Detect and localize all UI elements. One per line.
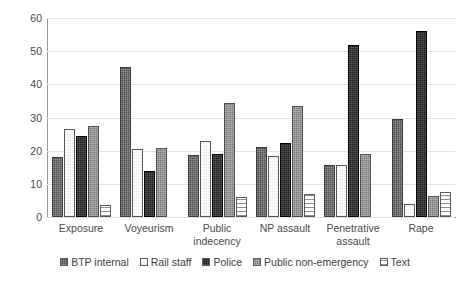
bar-group: [319, 18, 387, 217]
bar-group-bars: [47, 18, 115, 217]
y-axis-tick-label: 30: [30, 112, 42, 124]
bar: [156, 148, 167, 217]
y-axis-tick-label: 20: [30, 145, 42, 157]
bar: [144, 171, 155, 217]
bar: [100, 205, 111, 217]
bar-groups: [47, 18, 455, 217]
x-axis-label-line: assault: [319, 235, 387, 248]
y-axis-tick-label: 0: [36, 211, 42, 223]
legend-swatch-icon: [380, 258, 388, 266]
bar-group-bars: [387, 18, 455, 217]
bar-group-bars: [251, 18, 319, 217]
bar: [224, 103, 235, 217]
y-axis-tick-label: 60: [30, 12, 42, 24]
x-axis-label: NP assault: [251, 222, 319, 247]
y-axis-tick-label: 50: [30, 45, 42, 57]
bar-group: [387, 18, 455, 217]
bar: [336, 165, 347, 217]
legend-item[interactable]: Text: [380, 256, 410, 268]
bar-group: [115, 18, 183, 217]
bar-group: [183, 18, 251, 217]
bar: [348, 45, 359, 217]
x-axis-label-line: Rape: [387, 222, 455, 235]
bar: [236, 197, 247, 217]
bar: [120, 67, 131, 217]
bar: [392, 119, 403, 217]
bar: [324, 165, 335, 217]
bar: [200, 141, 211, 217]
bar: [416, 31, 427, 217]
legend-label: Rail staff: [151, 256, 192, 268]
x-axis-label-line: Voyeurism: [115, 222, 183, 235]
x-axis-label-line: Public: [183, 222, 251, 235]
bar-group: [251, 18, 319, 217]
y-axis-tick-label: 10: [30, 178, 42, 190]
x-axis-label: Rape: [387, 222, 455, 247]
legend-swatch-icon: [60, 258, 68, 266]
bar: [88, 126, 99, 217]
x-axis-label: Voyeurism: [115, 222, 183, 247]
plot-area: 0102030405060: [47, 18, 455, 217]
bar: [212, 154, 223, 217]
bar-group-bars: [115, 18, 183, 217]
legend-label: Public non-emergency: [264, 256, 368, 268]
bar: [256, 147, 267, 217]
bar: [76, 136, 87, 217]
x-axis-label-line: Exposure: [47, 222, 115, 235]
bar: [292, 106, 303, 217]
bar: [404, 204, 415, 217]
legend-item[interactable]: Public non-emergency: [253, 256, 368, 268]
bar: [268, 156, 279, 217]
bar: [64, 129, 75, 217]
legend-swatch-icon: [202, 258, 210, 266]
bar: [280, 143, 291, 217]
legend-label: BTP internal: [71, 256, 129, 268]
legend-item[interactable]: BTP internal: [60, 256, 129, 268]
bar-group-bars: [183, 18, 251, 217]
x-axis-label: Penetrativeassault: [319, 222, 387, 247]
x-axis-label: Exposure: [47, 222, 115, 247]
bar: [304, 194, 315, 217]
legend-swatch-icon: [140, 258, 148, 266]
bar: [360, 154, 371, 217]
legend-label: Text: [391, 256, 410, 268]
bar: [132, 149, 143, 217]
x-axis-label-line: NP assault: [251, 222, 319, 235]
bar-chart: 0102030405060 ExposureVoyeurismPublicind…: [0, 0, 470, 281]
legend-swatch-icon: [253, 258, 261, 266]
legend-label: Police: [213, 256, 242, 268]
bar: [440, 192, 451, 217]
bar-group-bars: [319, 18, 387, 217]
bar: [428, 196, 439, 217]
x-axis-label-line: indecency: [183, 235, 251, 248]
gridline: [47, 217, 455, 218]
x-axis-label: Publicindecency: [183, 222, 251, 247]
bar-group: [47, 18, 115, 217]
y-axis-tick-label: 40: [30, 78, 42, 90]
x-axis-labels: ExposureVoyeurismPublicindecencyNP assau…: [47, 222, 455, 247]
chart-legend: BTP internalRail staffPolicePublic non-e…: [0, 256, 470, 268]
legend-item[interactable]: Rail staff: [140, 256, 192, 268]
x-axis-label-line: Penetrative: [319, 222, 387, 235]
legend-item[interactable]: Police: [202, 256, 242, 268]
bar: [52, 157, 63, 217]
bar: [188, 155, 199, 217]
